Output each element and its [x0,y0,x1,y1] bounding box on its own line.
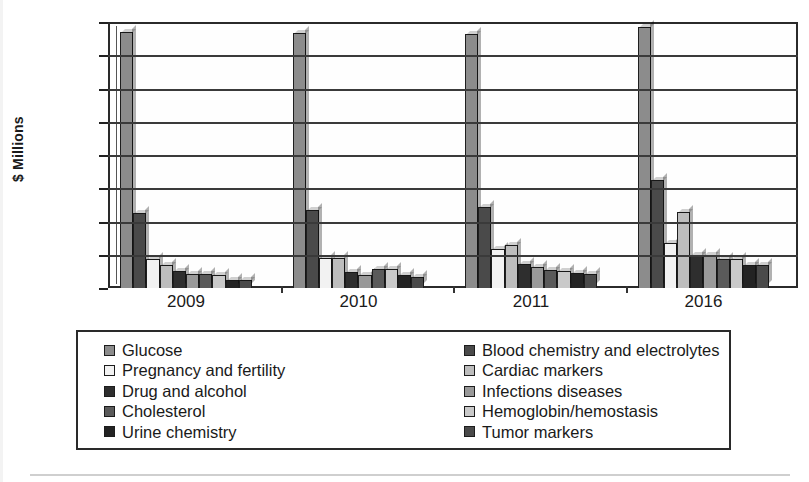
legend-swatch-icon [104,406,115,417]
chart-figure: $ Millions 01,0002,0003,0004,0005,0006,0… [0,0,809,482]
bar-glucose [120,32,133,288]
y-axis-tick-mark [99,89,108,91]
legend-item-label: Hemoglobin/hemostasis [482,403,658,420]
chart-legend: GlucosePregnancy and fertilityDrug and a… [76,330,731,450]
bar-urine-chemistry [226,280,239,288]
gridline [108,188,798,190]
bar-pregnancy-and-fertility [664,243,677,288]
legend-item-label: Infections diseases [482,383,622,400]
y-axis-title: $ Millions [6,76,22,96]
bar-infections-diseases [358,275,371,288]
y-axis-tick-mark [99,155,108,157]
bar-cardiac-markers [160,265,173,288]
legend-column-right: Blood chemistry and electrolytesCardiac … [464,340,719,442]
legend-swatch-icon [464,426,475,437]
legend-item: Hemoglobin/hemostasis [464,401,719,421]
bar-cholesterol [199,274,212,288]
bar-urine-chemistry [743,265,756,288]
y-axis-tick-mark [99,255,108,257]
scan-edge-bottom [30,474,790,476]
bar-tumor-markers [756,265,769,288]
legend-item-label: Glucose [122,342,183,359]
legend-item-label: Urine chemistry [122,424,237,441]
legend-item: Cholesterol [104,401,464,421]
bar-blood-chemistry-and-electrolytes [133,213,146,288]
legend-item: Urine chemistry [104,422,464,442]
bar-hemoglobin-hemostasis [730,259,743,288]
legend-item: Glucose [104,340,464,360]
scan-edge-left [0,0,3,482]
legend-item-label: Blood chemistry and electrolytes [482,342,720,359]
bar-drug-and-alcohol [518,264,531,288]
x-axis-tick-label: 2009 [167,292,205,312]
y-axis-tick-mark [99,55,108,57]
bar-tumor-markers [584,274,597,288]
x-axis-tick-label: 2011 [513,292,550,312]
legend-swatch-icon [464,406,475,417]
legend-column-left: GlucosePregnancy and fertilityDrug and a… [104,340,464,442]
bar-blood-chemistry-and-electrolytes [651,180,664,288]
legend-item-label: Pregnancy and fertility [122,362,285,379]
legend-item: Tumor markers [464,422,719,442]
y-axis-tick-mark [99,122,108,124]
y-axis-tick-mark [99,188,108,190]
legend-item-label: Cholesterol [122,403,205,420]
bar-glucose [293,33,306,288]
legend-swatch-icon [104,426,115,437]
bar-cardiac-markers [332,258,345,288]
bar-drug-and-alcohol [345,272,358,288]
gridline [108,89,798,91]
gridline [108,222,798,224]
y-axis-title-text: $ Millions [10,162,26,182]
legend-item: Infections diseases [464,381,719,401]
y-axis-tick-mark [99,222,108,224]
bar-urine-chemistry [571,273,584,288]
bar-urine-chemistry [398,275,411,288]
legend-swatch-icon [104,345,115,356]
bar-infections-diseases [186,274,199,288]
legend-item-label: Cardiac markers [482,362,603,379]
gridline [108,255,798,257]
x-axis-tick-label: 2010 [340,292,378,312]
x-axis-tick-mark [453,286,455,293]
legend-item: Blood chemistry and electrolytes [464,340,719,360]
gridline [108,155,798,157]
legend-swatch-icon [464,345,475,356]
x-axis-tick-label: 2016 [685,292,723,312]
bar-pregnancy-and-fertility [146,259,159,288]
y-axis-tick-mark [99,22,108,24]
legend-swatch-icon [464,386,475,397]
legend-item-label: Tumor markers [482,424,593,441]
x-axis-tick-mark [281,286,283,293]
bar-infections-diseases [531,267,544,288]
y-axis-tick-mark [99,288,108,290]
gridline [108,55,798,57]
legend-item: Pregnancy and fertility [104,360,464,380]
bar-cholesterol [544,270,557,288]
legend-item-label: Drug and alcohol [122,383,247,400]
bar-cholesterol [372,269,385,288]
bar-tumor-markers [239,280,252,288]
bar-cardiac-markers [505,245,518,288]
bar-hemoglobin-hemostasis [557,271,570,288]
legend-item: Cardiac markers [464,360,719,380]
bar-drug-and-alcohol [690,255,703,288]
bar-glucose [638,27,651,288]
gridline [108,122,798,124]
legend-swatch-icon [104,365,115,376]
bar-pregnancy-and-fertility [319,258,332,288]
bar-hemoglobin-hemostasis [212,275,225,288]
bar-glucose [465,34,478,288]
legend-swatch-icon [464,365,475,376]
bar-tumor-markers [411,277,424,288]
bar-blood-chemistry-and-electrolytes [478,207,491,288]
x-axis-tick-mark [626,286,628,293]
bar-hemoglobin-hemostasis [385,269,398,288]
legend-swatch-icon [104,386,115,397]
bar-cholesterol [717,259,730,288]
legend-item: Drug and alcohol [104,381,464,401]
bar-drug-and-alcohol [173,271,186,288]
plot-area: 01,0002,0003,0004,0005,0006,0007,0008,00… [108,22,798,288]
x-axis-labels: 2009201020112016 [108,292,798,318]
bar-infections-diseases [703,255,716,288]
